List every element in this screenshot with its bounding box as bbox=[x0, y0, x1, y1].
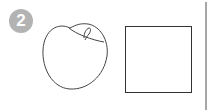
square-shape bbox=[126, 27, 192, 93]
apple-icon bbox=[43, 24, 107, 89]
drawing-canvas bbox=[0, 0, 210, 110]
